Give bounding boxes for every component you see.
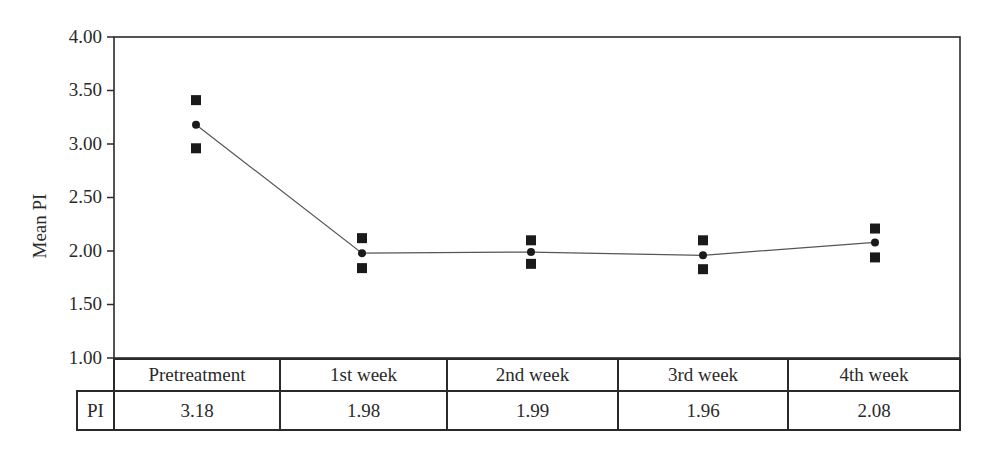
table-header-row: Pretreatment 1st week 2nd week 3rd week … <box>77 359 960 391</box>
bound-square-marker <box>526 235 536 245</box>
mean-point-marker <box>358 249 366 257</box>
data-table: Pretreatment 1st week 2nd week 3rd week … <box>76 358 961 431</box>
table-cell: 2.08 <box>788 391 960 430</box>
table-header-cell: 1st week <box>280 359 447 391</box>
bound-square-marker <box>698 235 708 245</box>
table-row: PI 3.18 1.98 1.99 1.96 2.08 <box>77 391 960 430</box>
table-header-cell: 2nd week <box>447 359 618 391</box>
y-tick-label: 3.00 <box>32 133 102 155</box>
table-cell: 3.18 <box>114 391 280 430</box>
table-cell: 1.99 <box>447 391 618 430</box>
table-cell: 1.96 <box>618 391 788 430</box>
table-header-cell: 3rd week <box>618 359 788 391</box>
mean-point-marker <box>192 121 200 129</box>
mean-point-marker <box>527 248 535 256</box>
mean-point-marker <box>871 238 879 246</box>
table-corner-cell <box>77 359 114 391</box>
bound-square-marker <box>698 264 708 274</box>
table-cell: 1.98 <box>280 391 447 430</box>
bound-square-marker <box>191 95 201 105</box>
series-layer <box>191 95 880 274</box>
y-axis-ticks <box>107 37 114 358</box>
y-tick-label: 3.50 <box>32 79 102 101</box>
y-axis-label: Mean PI <box>29 166 51 286</box>
table-header-cell: Pretreatment <box>114 359 280 391</box>
bound-square-marker <box>870 224 880 234</box>
bound-square-marker <box>357 233 367 243</box>
plot-frame <box>114 37 960 358</box>
table-row-label: PI <box>77 391 114 430</box>
mean-point-marker <box>699 251 707 259</box>
bound-square-marker <box>870 252 880 262</box>
y-tick-label: 4.00 <box>32 26 102 48</box>
bound-square-marker <box>191 143 201 153</box>
table-header-cell: 4th week <box>788 359 960 391</box>
bound-square-marker <box>357 263 367 273</box>
y-tick-label: 1.50 <box>32 293 102 315</box>
bound-square-marker <box>526 259 536 269</box>
